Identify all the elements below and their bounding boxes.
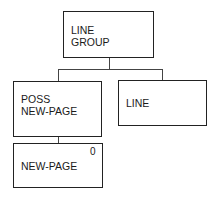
node-poss-new-page: POSS NEW-PAGE [13,81,102,137]
node-new-page: 0 NEW-PAGE [13,143,103,188]
connector-left-down [58,69,59,81]
connector-horizontal [58,69,163,70]
node-label: POSS NEW-PAGE [21,93,77,117]
node-label: LINE [126,97,149,109]
node-line-group: LINE GROUP [63,11,154,58]
node-label: LINE GROUP [71,24,110,48]
node-line: LINE [118,80,207,126]
node-marker: 0 [90,147,96,157]
connector-right-down [162,69,163,80]
node-label: NEW-PAGE [21,160,77,172]
